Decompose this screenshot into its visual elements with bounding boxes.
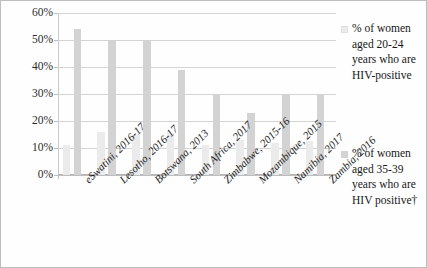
x-axis-category-labels: eSwatini, 2016-17Lesotho, 2016-17Botswan… [1,175,361,268]
y-axis-tick-label: 50% [32,34,53,45]
legend-label-35-39: % of women aged 35-39 years who are HIV … [352,146,425,208]
y-axis-tick-label: 10% [32,142,53,153]
legend-swatch-dark-icon [341,151,348,158]
y-axis-tick-label: 40% [32,61,53,72]
gridline [58,121,336,122]
x-axis-category-label: Zimbabwe, 2015-16 [221,177,229,185]
y-axis-tick-labels: 60%50%40%30%20%10%0% [9,13,53,175]
y-axis-tick-label: 60% [32,7,53,18]
y-axis-tickmark [54,148,58,149]
gridline [58,40,336,41]
x-axis-category-label: South Africa, 2017 [187,177,195,185]
x-axis-category-label: Botswana, 2013 [152,177,160,185]
legend-label-20-24: % of women aged 20-24 years who are HIV-… [352,21,425,83]
x-axis-category-label: Zambia, 2016 [326,177,334,185]
y-axis-tickmark [54,67,58,68]
x-axis-category-label: eSwatini, 2016-17 [82,177,90,185]
x-axis-category-label: Lesotho, 2016-17 [117,177,125,185]
bar [63,145,71,175]
y-axis-tick-label: 20% [32,115,53,126]
legend-item-20-24: % of women aged 20-24 years who are HIV-… [341,21,425,83]
gridline [58,67,336,68]
bar [74,29,82,175]
chart-figure: 60%50%40%30%20%10%0% eSwatini, 2016-17Le… [0,0,427,268]
y-axis-tickmark [54,13,58,14]
chart-legend: % of women aged 20-24 years who are HIV-… [341,15,425,261]
gridline [58,13,336,14]
y-axis-tickmark [54,40,58,41]
legend-swatch-light-icon [341,26,348,33]
gridline [58,94,336,95]
x-axis-category-label: Namibia, 2017 [291,177,299,185]
y-axis-tickmark [54,121,58,122]
legend-item-35-39: % of women aged 35-39 years who are HIV … [341,146,425,208]
y-axis-tickmark [54,94,58,95]
y-axis-tick-label: 30% [32,88,53,99]
x-axis-category-label: Mozambique, 2015 [256,177,264,185]
